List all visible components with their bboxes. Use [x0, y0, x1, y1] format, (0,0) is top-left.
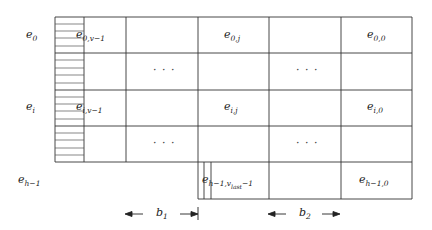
dimension-b2: b2 — [299, 206, 311, 221]
cell-ei-v-1: ei,v−1 — [76, 100, 103, 115]
dimension-b1: b1 — [156, 206, 168, 221]
cell-e0-v-1: e0,v−1 — [76, 28, 105, 43]
cell-ei-0: ei,0 — [367, 100, 383, 115]
row-label-h-1: eh−1 — [18, 173, 40, 188]
cell-e0-j: e0,j — [224, 28, 240, 43]
cell-e0-0: e0,0 — [367, 28, 385, 43]
ellipsis: · · · — [153, 137, 175, 150]
ellipsis: · · · — [153, 64, 175, 77]
row-label-0: e0 — [26, 28, 37, 43]
row-label-i: ei — [26, 100, 35, 115]
ellipsis: · · · — [296, 137, 318, 150]
hatched-column — [55, 24, 84, 155]
cell-eh-1-vlast-1: eh−1,vlast−1 — [202, 173, 253, 190]
cell-eh-1-0: eh−1,0 — [359, 173, 389, 188]
cell-ei-j: ei,j — [224, 100, 238, 115]
ellipsis: · · · — [296, 64, 318, 77]
